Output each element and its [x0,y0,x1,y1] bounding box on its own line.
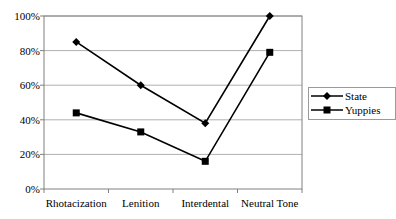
legend: State Yuppies [308,87,396,120]
y-tick-label: 20% [0,148,40,160]
legend-item-state: State [311,89,367,103]
square-marker [266,49,273,56]
square-marker-icon [311,105,343,115]
y-tick-label: 80% [0,45,40,57]
legend-label: State [345,89,367,103]
y-tick-label: 60% [0,79,40,91]
diamond-marker [201,119,209,127]
square-marker [137,128,144,135]
square-marker [202,158,209,165]
x-tick-label: Neutral Tone [225,197,315,209]
diamond-marker [266,12,274,20]
y-tick-label: 0% [0,183,40,195]
y-tick-label: 40% [0,114,40,126]
plot-area [44,16,302,189]
series-line-yuppies [76,52,270,161]
series-line-state [76,16,270,123]
legend-label: Yuppies [345,103,380,117]
square-marker [73,109,80,116]
y-tick-label: 100% [0,10,40,22]
diamond-marker-icon [311,91,343,101]
legend-item-yuppies: Yuppies [311,103,380,117]
